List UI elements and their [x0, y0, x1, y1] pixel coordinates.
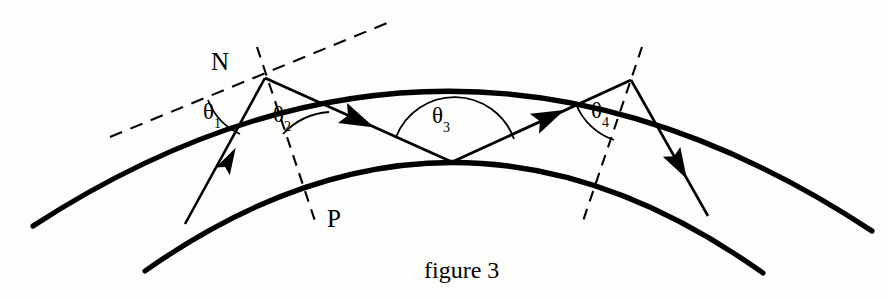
exit-ray-arrowhead: [663, 147, 696, 184]
theta2-subscript: 2: [284, 119, 291, 134]
angle-label-theta3: θ3: [432, 104, 450, 132]
theta1-symbol: θ: [203, 99, 214, 124]
point-label-n: N: [211, 49, 229, 74]
angle-label-theta2: θ2: [273, 103, 291, 131]
incident-ray: [185, 78, 265, 224]
ray-diagram-svg: [0, 0, 888, 299]
theta2-symbol: θ: [273, 102, 284, 127]
reflected-ray-arrowhead: [530, 100, 569, 134]
normal-line-at-N: [257, 47, 316, 224]
angle-label-theta4: θ4: [591, 99, 609, 127]
angle-arc-theta3: [396, 97, 514, 139]
theta3-subscript: 3: [443, 120, 450, 135]
angle-label-theta1: θ1: [203, 100, 221, 128]
theta4-symbol: θ: [591, 98, 602, 123]
refracted-ray-arrowhead: [338, 103, 379, 137]
point-label-p: P: [327, 206, 341, 231]
figure-caption: figure 3: [424, 258, 499, 282]
exit-ray: [631, 80, 708, 216]
theta3-symbol: θ: [432, 103, 443, 128]
theta4-subscript: 4: [602, 115, 609, 130]
figure-container: N P θ1 θ2 θ3 θ4 figure 3: [0, 0, 888, 299]
theta1-subscript: 1: [214, 116, 221, 131]
